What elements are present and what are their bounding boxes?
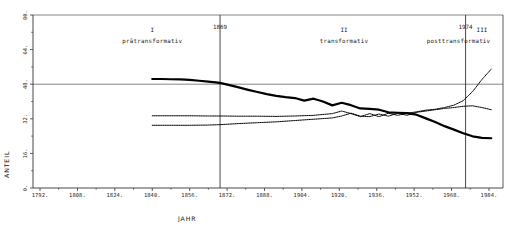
- y-tick-label: 64.: [22, 45, 28, 55]
- chart-figure: 1792.1808.1824.1840.1856.1872.1888.1904.…: [0, 0, 509, 228]
- phase-3-name: posttransformativ: [427, 38, 491, 45]
- divider-1869-label: 1869: [213, 24, 227, 30]
- x-tick-label: 1872.: [219, 192, 236, 198]
- x-tick-label: 1984.: [481, 192, 498, 198]
- x-tick-label: 1888.: [256, 192, 273, 198]
- x-tick-label: 1808.: [69, 192, 86, 198]
- y-tick-label: 80.: [22, 10, 28, 20]
- x-tick-label: 1824.: [106, 192, 123, 198]
- x-tick-label: 1936.: [368, 192, 385, 198]
- y-tick-label: 48.: [22, 79, 28, 89]
- phase-2-roman: II: [340, 26, 348, 33]
- x-tick-label: 1968.: [443, 192, 460, 198]
- x-tick-label: 1904.: [294, 192, 311, 198]
- y-tick-label: 16.: [22, 149, 28, 159]
- divider-1974-label: 1974: [459, 24, 473, 30]
- y-axis-title: ANTEIL: [3, 151, 10, 178]
- phase-3-roman: III: [477, 26, 488, 33]
- x-tick-label: 1952.: [406, 192, 423, 198]
- x-tick-label: 1792.: [32, 192, 49, 198]
- y-tick-label: 32.: [22, 114, 28, 124]
- x-axis-title: JAHR: [177, 215, 197, 223]
- chart-canvas: 1792.1808.1824.1840.1856.1872.1888.1904.…: [0, 0, 509, 228]
- x-tick-label: 1920.: [331, 192, 348, 198]
- phase-2-name: transformativ: [320, 38, 369, 44]
- x-tick-label: 1840.: [144, 192, 161, 198]
- y-tick-label: 0.: [22, 185, 28, 192]
- x-tick-label: 1856.: [181, 192, 198, 198]
- phase-1-roman: I: [150, 26, 154, 33]
- phase-1-name: prätransformativ: [122, 38, 182, 45]
